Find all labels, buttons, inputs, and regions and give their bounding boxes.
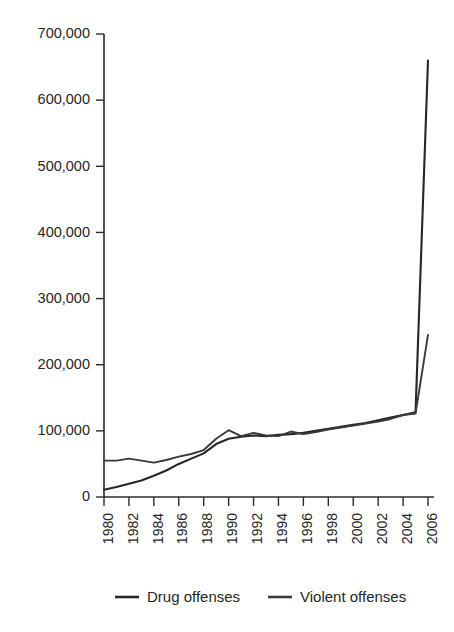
x-tick-label: 1982 [125,513,141,544]
y-axis-tick-labels: 0100,000200,000300,000400,000500,000600,… [38,25,90,504]
y-tick-label: 500,000 [38,158,90,174]
x-tick-label: 1994 [274,513,290,544]
chart-figure: 0100,000200,000300,000400,000500,000600,… [0,0,454,632]
x-tick-label: 2004 [399,513,415,544]
x-tick-label: 2000 [349,513,365,544]
x-tick-label: 1984 [150,513,166,544]
x-tick-label: 1996 [299,513,315,544]
x-axis-tick-marks [104,497,428,506]
y-tick-label: 200,000 [38,356,90,372]
y-tick-label: 100,000 [38,422,90,438]
legend-label-violent-offenses: Violent offenses [300,588,406,605]
y-tick-label: 300,000 [38,290,90,306]
y-axis-tick-marks [96,34,104,497]
x-tick-label: 1986 [174,513,190,544]
y-tick-label: 400,000 [38,224,90,240]
x-tick-label: 2002 [374,513,390,544]
legend-label-drug-offenses: Drug offenses [147,588,240,605]
x-axis-tick-labels: 1980198219841986198819901992199419961998… [100,513,440,544]
x-tick-label: 2006 [424,513,440,544]
x-tick-label: 1990 [224,513,240,544]
x-tick-label: 1992 [249,513,265,544]
chart-legend: Drug offensesViolent offenses [115,588,406,605]
x-tick-label: 1998 [324,513,340,544]
series-line-drug-offenses [104,60,428,489]
x-tick-label: 1980 [100,513,116,544]
series-line-violent-offenses [104,335,428,463]
line-chart: 0100,000200,000300,000400,000500,000600,… [0,0,454,632]
y-tick-label: 0 [82,488,90,504]
data-series-group [104,60,428,489]
x-tick-label: 1988 [199,513,215,544]
y-tick-label: 600,000 [38,91,90,107]
y-tick-label: 700,000 [38,25,90,41]
